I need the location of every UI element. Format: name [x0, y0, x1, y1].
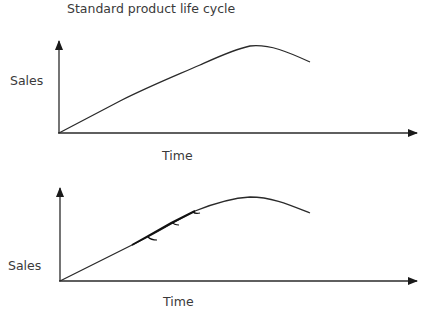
y-axis-label-bottom: Sales: [8, 258, 41, 273]
extension-segment: [132, 211, 195, 245]
chart-with-extensions: [59, 188, 417, 281]
extension-tick-2: [172, 222, 179, 225]
sales-curve: [60, 197, 310, 281]
extension-tick-3: [193, 212, 200, 213]
sales-curve: [59, 46, 310, 133]
chart-standard: [58, 41, 417, 133]
x-axis-label-top: Time: [162, 148, 193, 163]
y-axis-label-top: Sales: [10, 73, 43, 88]
x-axis-label-bottom: Time: [163, 294, 194, 309]
extension-tick-1: [148, 237, 157, 240]
life-cycle-diagrams: [0, 0, 422, 314]
